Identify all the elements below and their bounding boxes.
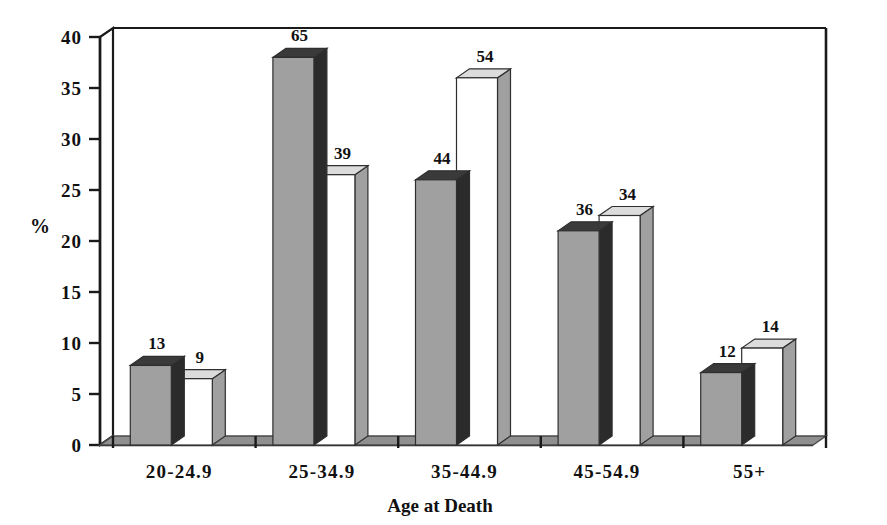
y-tick-label: 40 — [61, 27, 82, 48]
bar-side-face — [457, 171, 470, 445]
bar-3d — [130, 356, 184, 445]
bar-side-face — [212, 370, 225, 445]
bar-front-face — [558, 231, 599, 445]
bar-value-label: 34 — [619, 185, 637, 204]
bar-side-face — [314, 48, 327, 445]
bar-side-face — [640, 207, 653, 446]
bar-side-face — [171, 356, 184, 445]
y-tick-label: 15 — [61, 282, 82, 303]
bar-side-face — [783, 339, 796, 445]
bar-3d — [701, 364, 755, 445]
bar-front-face — [416, 180, 457, 445]
y-tick-label: 10 — [61, 333, 82, 354]
bar-value-label: 14 — [762, 317, 780, 336]
bar-value-label: 54 — [477, 47, 495, 66]
y-axis-title: % — [30, 215, 50, 237]
x-category-label: 55+ — [733, 461, 766, 482]
y-tick-label: 5 — [72, 384, 83, 405]
bar-side-face — [355, 166, 368, 445]
bar-value-label: 12 — [719, 342, 736, 361]
x-category-label: 25-34.9 — [288, 461, 355, 482]
bar-side-face — [498, 69, 511, 445]
bar-3d — [416, 171, 470, 445]
bar-front-face — [701, 373, 742, 445]
bar-value-label: 39 — [334, 144, 351, 163]
chart-container: 0510152025303540 20-24.925-34.935-44.945… — [0, 0, 887, 525]
bar-chart: 0510152025303540 20-24.925-34.935-44.945… — [0, 0, 887, 525]
left-wall — [100, 28, 113, 445]
bar-front-face — [273, 57, 314, 445]
bar-side-face — [742, 364, 755, 445]
y-tick-label: 30 — [61, 129, 82, 150]
y-tick-label: 35 — [61, 78, 82, 99]
bar-front-face — [130, 365, 171, 445]
x-category-label: 20-24.9 — [146, 461, 213, 482]
bar-side-face — [599, 222, 612, 445]
bar-value-label: 65 — [291, 26, 308, 45]
bar-value-label: 44 — [434, 149, 452, 168]
x-category-label: 45-54.9 — [574, 461, 641, 482]
y-tick-label: 0 — [72, 435, 83, 456]
y-tick-label: 25 — [61, 180, 82, 201]
bar-value-label: 13 — [148, 334, 165, 353]
x-axis-title: Age at Death — [387, 495, 493, 516]
y-tick-label: 20 — [61, 231, 82, 252]
bar-3d — [273, 48, 327, 445]
x-category-label: 35-44.9 — [431, 461, 498, 482]
bar-3d — [558, 222, 612, 445]
bar-value-label: 36 — [576, 200, 593, 219]
bar-value-label: 9 — [196, 348, 205, 367]
